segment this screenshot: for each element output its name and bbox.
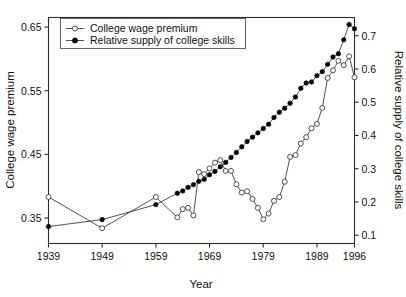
data-point [212, 160, 217, 165]
data-point [191, 213, 196, 218]
x-tick-label-1979: 1979 [252, 250, 276, 262]
x-tick-label-1939: 1939 [37, 250, 61, 262]
data-point [197, 179, 201, 183]
data-point [283, 106, 287, 110]
data-point [288, 101, 292, 105]
data-point [186, 185, 190, 189]
x-tick-label-1949: 1949 [91, 250, 115, 262]
data-point [352, 75, 357, 80]
x-tick-label-1959: 1959 [144, 250, 168, 262]
data-point [261, 217, 266, 222]
data-point [245, 189, 250, 194]
data-point [255, 205, 260, 210]
data-point [304, 81, 308, 85]
filled-circle-icon [72, 38, 77, 43]
open-circle-icon [72, 26, 77, 31]
data-point [100, 226, 105, 231]
figure-container: 1939194919591969197919891996 0.350.450.5… [0, 0, 406, 297]
data-point [218, 165, 222, 169]
data-point [181, 189, 185, 193]
data-point [261, 126, 265, 130]
data-point [282, 179, 287, 184]
data-point [293, 153, 298, 158]
data-point [207, 173, 211, 177]
data-point [336, 52, 340, 56]
data-point [271, 198, 276, 203]
data-point [245, 139, 249, 143]
y-axis-right-title: Relative supply of college skills [393, 51, 405, 210]
data-point [266, 122, 270, 126]
data-point [46, 224, 50, 228]
data-point [325, 75, 330, 80]
y-axis-left-ticks [45, 27, 49, 218]
y2-tick-label-0.6: 0.6 [362, 63, 377, 75]
data-point [213, 169, 217, 173]
data-point [223, 160, 227, 164]
data-point [272, 115, 276, 119]
x-axis-ticks [49, 244, 355, 248]
data-point [186, 205, 191, 210]
data-point [100, 217, 104, 221]
data-point [154, 202, 158, 206]
data-point [304, 135, 309, 140]
data-point [207, 166, 212, 171]
legend-label-1: Relative supply of college skills [90, 34, 235, 46]
y2-tick-label-0.1: 0.1 [362, 229, 377, 241]
data-point [191, 182, 195, 186]
data-point [266, 211, 271, 216]
legend-label-0: College wage premium [90, 22, 198, 34]
data-point [325, 62, 329, 66]
data-point [288, 154, 293, 159]
data-point [234, 150, 238, 154]
legend-entry-relative-supply-of-college-skills: Relative supply of college skills [66, 34, 235, 46]
data-point [298, 141, 303, 146]
y2-tick-label-0.2: 0.2 [362, 196, 377, 208]
y2-tick-label-0.3: 0.3 [362, 163, 377, 175]
data-point [352, 27, 356, 31]
data-point [229, 168, 234, 173]
data-point [239, 190, 244, 195]
y-axis-right-ticks [355, 36, 359, 235]
x-axis-tick-labels: 1939194919591969197919891996 [37, 250, 367, 262]
data-point [331, 55, 335, 59]
y2-tick-label-0.4: 0.4 [362, 129, 377, 141]
data-point [315, 73, 319, 77]
data-point [240, 145, 244, 149]
data-point [309, 126, 314, 131]
data-point [347, 22, 351, 26]
data-point [277, 110, 281, 114]
y-axis-right-tick-labels: 0.10.20.30.40.50.60.7 [362, 30, 377, 241]
data-point [175, 215, 180, 220]
data-point [46, 195, 51, 200]
data-point [341, 63, 346, 68]
plot-area-border [49, 18, 355, 244]
series-line [49, 24, 355, 226]
data-point [293, 95, 297, 99]
data-point [320, 105, 325, 110]
chart-legend: College wage premium Relative supply of … [61, 19, 246, 49]
y2-tick-label-0.7: 0.7 [362, 30, 377, 42]
data-point [202, 172, 207, 177]
data-point [180, 207, 185, 212]
data-point [347, 54, 352, 59]
y2-tick-label-0.5: 0.5 [362, 96, 377, 108]
data-point [331, 68, 336, 73]
data-point [320, 69, 324, 73]
data-point [175, 191, 179, 195]
data-point [256, 131, 260, 135]
data-point [250, 135, 254, 139]
data-point [218, 158, 223, 163]
x-tick-label-1969: 1969 [198, 250, 222, 262]
x-tick-label-1989: 1989 [305, 250, 329, 262]
y-axis-left-tick-labels: 0.350.450.550.65 [21, 21, 42, 224]
data-point [277, 195, 282, 200]
data-point [336, 58, 341, 63]
data-point [202, 177, 206, 181]
y-axis-left-title: College wage premium [4, 71, 16, 189]
y-tick-label-0.65: 0.65 [21, 21, 42, 33]
y-tick-label-0.55: 0.55 [21, 85, 42, 97]
data-series-layer [46, 22, 357, 230]
data-point [250, 196, 255, 201]
y-tick-label-0.35: 0.35 [21, 212, 42, 224]
data-point [342, 38, 346, 42]
